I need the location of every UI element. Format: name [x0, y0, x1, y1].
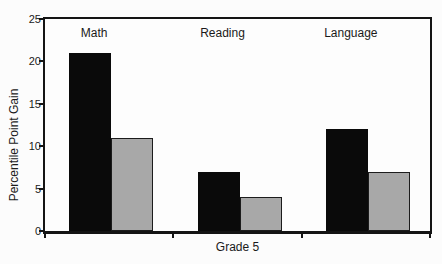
percentile-gain-bar-chart: Percentile Point Gain MathReadingLanguag…	[0, 0, 442, 264]
y-tick-label: 20	[0, 54, 41, 68]
plot-area: MathReadingLanguage	[43, 17, 432, 234]
bar-gray	[111, 138, 153, 231]
y-tick-label: 5	[0, 182, 41, 196]
x-tick-mark	[301, 231, 303, 238]
x-tick-mark	[44, 231, 46, 238]
bar-gray	[368, 172, 410, 231]
y-tick-label: 10	[0, 139, 41, 153]
x-axis-title: Grade 5	[45, 240, 430, 254]
bar-black	[69, 53, 111, 231]
x-tick-mark	[172, 231, 174, 238]
bar-black	[326, 129, 368, 231]
category-label: Reading	[200, 26, 245, 40]
x-tick-mark	[429, 231, 431, 238]
y-tick-label: 15	[0, 97, 41, 111]
y-tick-label: 25	[0, 12, 41, 26]
y-tick-label: 0	[0, 224, 41, 238]
bar-gray	[240, 197, 282, 231]
category-label: Math	[81, 26, 108, 40]
bar-black	[198, 172, 240, 231]
category-label: Language	[324, 26, 377, 40]
